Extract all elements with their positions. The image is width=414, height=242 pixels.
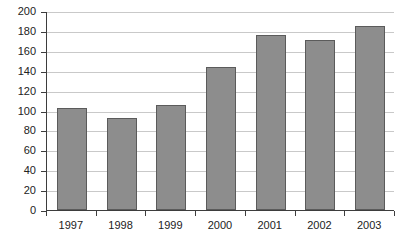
x-axis-tick-mark (394, 211, 395, 216)
bar-chart-figure: 020406080100120140160180200 199719981999… (0, 0, 414, 242)
y-axis-tick-label: 140 (0, 66, 36, 77)
y-axis-tick-label: 80 (0, 125, 36, 136)
y-axis-tick-label: 180 (0, 26, 36, 37)
x-axis-tick-mark (96, 211, 97, 216)
bar-2002 (305, 40, 335, 210)
y-axis-tick-mark (41, 131, 46, 132)
y-axis-tick-mark (41, 171, 46, 172)
x-axis-tick-label-2003: 2003 (344, 219, 394, 231)
y-axis-tick-label: 0 (0, 205, 36, 216)
x-axis-tick-mark (46, 211, 47, 216)
x-axis-tick-mark (195, 211, 196, 216)
bar-2003 (355, 26, 385, 210)
y-axis-tick-mark (41, 92, 46, 93)
y-axis-tick-mark (41, 32, 46, 33)
y-axis-tick-mark (41, 191, 46, 192)
y-axis-tick-label: 40 (0, 165, 36, 176)
bar-2000 (206, 67, 236, 210)
y-axis-tick-mark (41, 211, 46, 212)
x-axis-tick-mark (245, 211, 246, 216)
y-axis-tick-label: 100 (0, 106, 36, 117)
bar-1998 (107, 118, 137, 210)
x-axis-tick-mark (295, 211, 296, 216)
bar-1997 (57, 108, 87, 210)
x-axis-tick-label-1997: 1997 (46, 219, 96, 231)
y-axis-tick-mark (41, 151, 46, 152)
plot-area (46, 12, 394, 211)
x-axis-tick-label-2000: 2000 (195, 219, 245, 231)
x-axis-tick-label-2002: 2002 (295, 219, 345, 231)
x-axis-tick-label-1998: 1998 (96, 219, 146, 231)
x-axis-tick-mark (344, 211, 345, 216)
y-axis-tick-mark (41, 12, 46, 13)
y-axis-tick-mark (41, 112, 46, 113)
y-axis-tick-label: 200 (0, 6, 36, 17)
y-axis-tick-mark (41, 72, 46, 73)
y-axis-tick-label: 20 (0, 185, 36, 196)
x-axis-tick-label-1999: 1999 (145, 219, 195, 231)
figure-caption (2, 234, 412, 242)
bar-2001 (256, 35, 286, 210)
bar-1999 (156, 105, 186, 210)
bars-layer (47, 12, 394, 210)
y-axis-tick-label: 60 (0, 145, 36, 156)
x-axis-tick-mark (145, 211, 146, 216)
x-axis-tick-label-2001: 2001 (245, 219, 295, 231)
y-axis-tick-label: 120 (0, 86, 36, 97)
y-axis: 020406080100120140160180200 (0, 0, 40, 242)
y-axis-tick-label: 160 (0, 46, 36, 57)
y-axis-tick-mark (41, 52, 46, 53)
